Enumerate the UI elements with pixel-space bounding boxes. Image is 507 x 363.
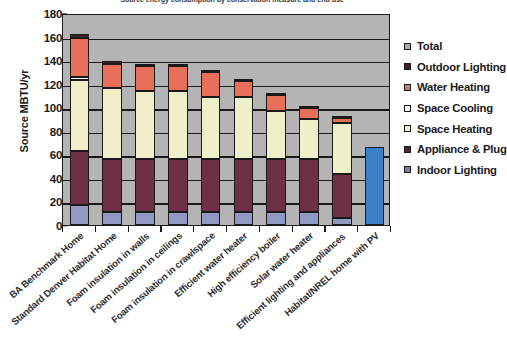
bar-segment[interactable] <box>266 212 286 225</box>
bar-segment[interactable] <box>201 97 221 159</box>
bar-column[interactable] <box>70 34 90 225</box>
bar-segment[interactable] <box>234 97 254 159</box>
bar-segment[interactable] <box>135 91 155 159</box>
bar-segment[interactable] <box>299 108 319 119</box>
bar-segment[interactable] <box>70 205 90 225</box>
bar-segment[interactable] <box>70 77 90 81</box>
bar-segment[interactable] <box>102 212 122 225</box>
bar-segment[interactable] <box>332 116 352 118</box>
bar-segment[interactable] <box>168 159 188 212</box>
legend-item-label: Outdoor Lighting <box>417 61 506 73</box>
bar-segment[interactable] <box>299 159 319 212</box>
legend-swatch-icon <box>404 105 411 112</box>
bar-segment[interactable] <box>168 66 188 91</box>
legend-item-label: Total <box>417 40 442 52</box>
chart-title: Source energy consumption by conservatio… <box>72 0 392 4</box>
bar-column[interactable] <box>168 64 188 225</box>
legend-item[interactable]: Total <box>404 36 504 57</box>
bar-segment[interactable] <box>70 151 90 205</box>
legend-swatch-icon <box>404 146 411 153</box>
bar-segment[interactable] <box>70 38 90 77</box>
legend-swatch-icon <box>404 125 411 132</box>
bar-column[interactable] <box>332 117 352 225</box>
legend-swatch-icon <box>404 166 411 173</box>
bar-segment[interactable] <box>70 80 90 151</box>
bar-segment[interactable] <box>266 93 286 95</box>
legend-item[interactable]: Space Heating <box>404 118 504 139</box>
legend-item[interactable]: Outdoor Lighting <box>404 57 504 78</box>
legend-item-label: Indoor Lighting <box>417 164 497 176</box>
bar-segment[interactable] <box>168 64 188 66</box>
bar-series-group <box>63 15 389 225</box>
chart-legend: TotalOutdoor LightingWater HeatingSpace … <box>404 36 504 180</box>
y-axis-tick-label: 180 <box>10 8 62 20</box>
bar-segment[interactable] <box>299 106 319 108</box>
bar-segment[interactable] <box>201 159 221 212</box>
bar-segment[interactable] <box>266 159 286 212</box>
bar-segment[interactable] <box>234 79 254 81</box>
bar-segment[interactable] <box>299 119 319 159</box>
legend-item-label: Water Heating <box>417 81 490 93</box>
bar-segment[interactable] <box>70 34 90 38</box>
bar-segment[interactable] <box>135 64 155 66</box>
legend-swatch-icon <box>404 84 411 91</box>
bar-segment[interactable] <box>266 95 286 110</box>
bar-segment[interactable] <box>135 66 155 91</box>
bar-column[interactable] <box>365 147 385 225</box>
bar-column[interactable] <box>299 106 319 225</box>
legend-item[interactable]: Space Cooling <box>404 98 504 119</box>
legend-item[interactable]: Water Heating <box>404 77 504 98</box>
y-axis-tick-label: 20 <box>10 196 62 208</box>
bar-segment[interactable] <box>201 212 221 225</box>
y-axis-tick-label: 40 <box>10 173 62 185</box>
legend-swatch-icon <box>404 43 411 50</box>
legend-item[interactable]: Indoor Lighting <box>404 160 504 181</box>
bar-segment[interactable] <box>332 174 352 218</box>
bar-segment[interactable] <box>266 111 286 159</box>
y-axis: 180160140120100806040200 <box>0 0 62 240</box>
legend-item-label: Space Heating <box>417 123 492 135</box>
bar-segment[interactable] <box>234 212 254 225</box>
legend-item-label: Space Cooling <box>417 102 493 114</box>
bar-segment[interactable] <box>168 91 188 159</box>
bar-segment[interactable] <box>102 61 122 63</box>
bar-column[interactable] <box>102 61 122 225</box>
legend-item[interactable]: Appliance & Plug <box>404 139 504 160</box>
bar-segment[interactable] <box>332 123 352 175</box>
y-axis-tick-label: 60 <box>10 149 62 161</box>
x-axis-labels: BA Benchmark HomeStandard Denver Habitat… <box>0 226 505 363</box>
bar-segment[interactable] <box>332 218 352 225</box>
y-axis-tick-label: 100 <box>10 102 62 114</box>
plot-area <box>62 14 390 226</box>
bar-segment[interactable] <box>234 159 254 212</box>
legend-item-label: Appliance & Plug <box>417 143 507 155</box>
bar-segment[interactable] <box>234 81 254 96</box>
bar-segment[interactable] <box>332 118 352 123</box>
bar-segment[interactable] <box>201 70 221 72</box>
bar-segment[interactable] <box>201 72 221 97</box>
bar-segment[interactable] <box>102 88 122 159</box>
y-axis-tick-label: 120 <box>10 79 62 91</box>
y-axis-tick-label: 140 <box>10 55 62 67</box>
y-axis-tick-label: 80 <box>10 126 62 138</box>
bar-segment[interactable] <box>102 64 122 89</box>
bar-segment[interactable] <box>135 212 155 225</box>
bar-column[interactable] <box>135 64 155 225</box>
bar-column[interactable] <box>266 93 286 225</box>
bar-segment[interactable] <box>135 159 155 212</box>
bar-segment[interactable] <box>299 212 319 225</box>
legend-swatch-icon <box>404 63 411 70</box>
bar-segment[interactable] <box>365 147 385 225</box>
bar-segment[interactable] <box>102 159 122 212</box>
y-axis-tick-label: 160 <box>10 32 62 44</box>
bar-column[interactable] <box>234 79 254 225</box>
bar-column[interactable] <box>201 70 221 225</box>
bar-segment[interactable] <box>168 212 188 225</box>
